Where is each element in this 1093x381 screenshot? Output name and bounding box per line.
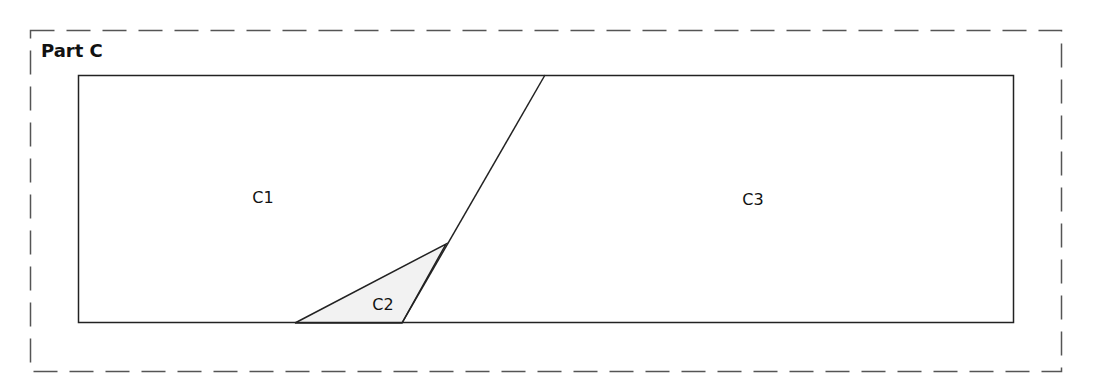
dividing-line (402, 75, 545, 323)
diagram-canvas (0, 0, 1093, 381)
region-c2-shape (295, 244, 446, 323)
region-c3-label: C3 (742, 190, 763, 209)
dashed-boundary (31, 31, 1062, 372)
region-c2-label: C2 (372, 295, 393, 314)
part-title: Part C (41, 40, 103, 61)
outer-rectangle (79, 76, 1014, 323)
region-c1-label: C1 (252, 188, 273, 207)
